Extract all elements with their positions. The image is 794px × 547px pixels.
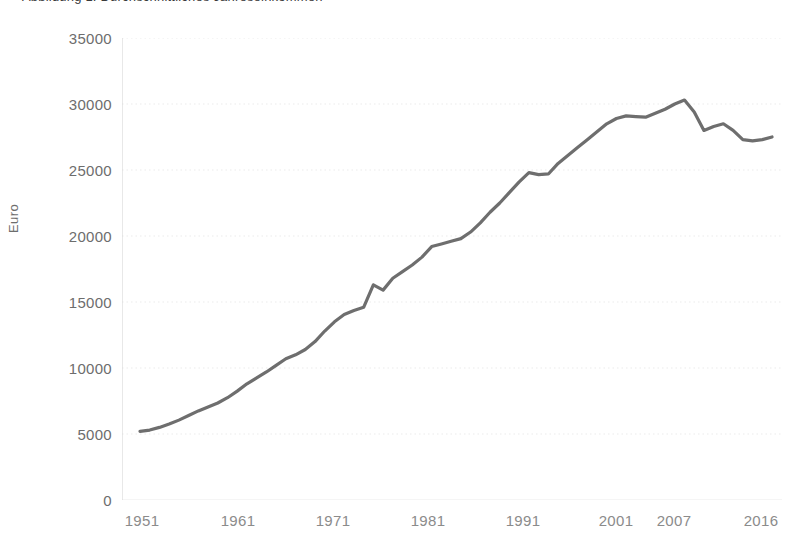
x-tick-label: 2016: [731, 513, 791, 528]
x-tick-label: 1991: [493, 513, 553, 528]
x-tick-label: 2007: [644, 513, 704, 528]
x-tick-label: 2001: [586, 513, 646, 528]
x-tick-label: 1951: [112, 513, 172, 528]
x-axis-tick-labels: 1951 1961 1971 1981 1991 2001 2007 2016: [0, 0, 794, 547]
x-tick-label: 1971: [303, 513, 363, 528]
chart-figure: Abbildung 1: Durchschnittliches Jahresei…: [0, 0, 794, 547]
x-tick-label: 1981: [398, 513, 458, 528]
x-tick-label: 1961: [208, 513, 268, 528]
